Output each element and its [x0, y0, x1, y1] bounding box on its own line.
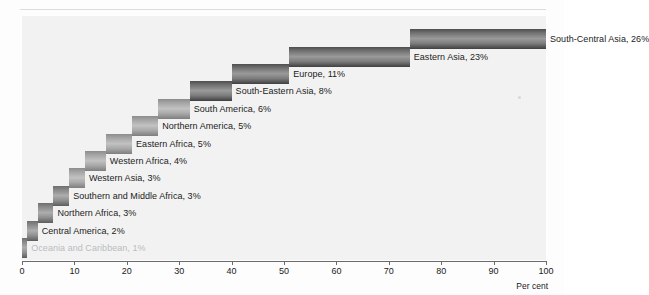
- x-tick-label: 90: [489, 266, 499, 276]
- x-tick: [546, 261, 547, 265]
- x-tick-label: 70: [384, 266, 394, 276]
- bar-northern-america: [132, 116, 158, 136]
- bar-label: Eastern Africa, 5%: [136, 139, 211, 150]
- bar-eastern-africa: [106, 134, 132, 154]
- bar-label: South-Eastern Asia, 8%: [236, 86, 332, 97]
- x-tick: [284, 261, 285, 265]
- bar-label: Southern and Middle Africa, 3%: [73, 191, 201, 202]
- x-tick: [127, 261, 128, 265]
- x-tick-label: 80: [436, 266, 446, 276]
- x-tick: [389, 261, 390, 265]
- header-divider: [20, 9, 546, 10]
- bar-western-asia: [69, 168, 85, 188]
- bars-layer: Oceania and Caribbean, 1%Central America…: [22, 16, 546, 260]
- x-tick: [494, 261, 495, 265]
- x-tick: [441, 261, 442, 265]
- bar-northern-africa: [38, 203, 54, 223]
- bar-label: Western Asia, 3%: [89, 173, 161, 184]
- bar-central-america: [27, 221, 37, 241]
- bar-label: Eastern Asia, 23%: [414, 52, 488, 63]
- x-tick: [22, 261, 23, 265]
- cropped-header-strip: [0, 0, 564, 9]
- bar-label: Europe, 11%: [293, 69, 345, 80]
- bar-eastern-asia: [289, 47, 410, 67]
- bar-western-africa: [85, 151, 106, 171]
- x-tick: [179, 261, 180, 265]
- x-tick: [336, 261, 337, 265]
- bar-label: Northern America, 5%: [162, 121, 251, 132]
- x-tick: [232, 261, 233, 265]
- scan-speck: [518, 96, 521, 99]
- bar-label: Central America, 2%: [42, 226, 125, 237]
- x-tick-label: 30: [174, 266, 184, 276]
- x-tick-label: 10: [69, 266, 79, 276]
- bar-oceania-and-caribbean: [22, 238, 27, 258]
- bar-south-eastern-asia: [190, 81, 232, 101]
- bar-southern-and-middle-africa: [53, 186, 69, 206]
- x-tick: [74, 261, 75, 265]
- bar-south-central-asia: [410, 29, 546, 49]
- bar-label: Western Africa, 4%: [110, 156, 187, 167]
- bar-label: South America, 6%: [194, 104, 271, 115]
- plot-area: Oceania and Caribbean, 1%Central America…: [22, 16, 546, 260]
- bar-south-america: [158, 99, 189, 119]
- x-tick-label: 60: [331, 266, 341, 276]
- x-tick-label: 20: [122, 266, 132, 276]
- bar-label: South-Central Asia, 26%: [550, 34, 649, 45]
- x-tick-label: 100: [538, 266, 553, 276]
- bar-europe: [232, 64, 290, 84]
- bar-label: Oceania and Caribbean, 1%: [31, 243, 145, 254]
- x-tick-label: 40: [227, 266, 237, 276]
- x-axis-title: Per cent: [516, 281, 548, 291]
- x-tick-label: 50: [279, 266, 289, 276]
- x-tick-label: 0: [19, 266, 24, 276]
- bar-label: Northern Africa, 3%: [57, 208, 136, 219]
